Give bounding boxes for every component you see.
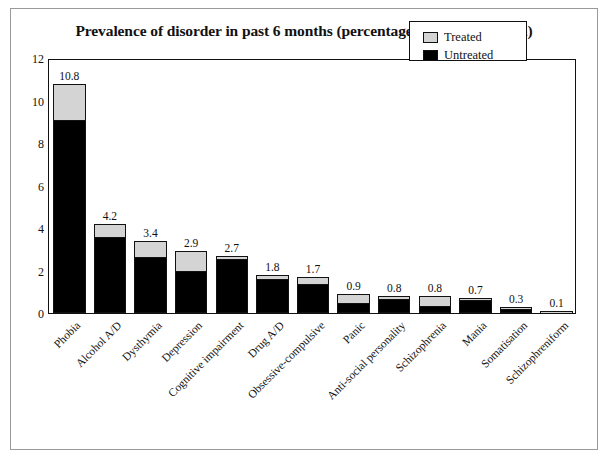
bar-value-label: 0.7 xyxy=(468,284,482,296)
y-axis-tick-label: 10 xyxy=(14,94,44,109)
bar-untreated-segment[interactable] xyxy=(94,224,126,313)
x-axis: PhobiaAlcohol A/DDysthymiaDepressionCogn… xyxy=(48,315,576,445)
bar-treated-segment[interactable] xyxy=(135,242,165,258)
bars-layer: 10.84.23.42.92.71.81.70.90.80.80.70.30.1 xyxy=(49,60,575,313)
bar-untreated-segment[interactable] xyxy=(297,277,329,313)
bar-group[interactable]: 0.8 xyxy=(419,58,451,313)
square-swatch-icon xyxy=(423,50,438,61)
bar-group[interactable]: 4.2 xyxy=(94,58,126,313)
bar-treated-segment[interactable] xyxy=(379,297,409,300)
x-axis-tick-label: Mania xyxy=(460,319,489,348)
square-swatch-icon xyxy=(423,32,438,43)
bar-treated-segment[interactable] xyxy=(501,308,531,311)
bar-value-label: 10.8 xyxy=(59,70,79,82)
bar-group[interactable]: 0.3 xyxy=(500,58,532,313)
y-axis-tick-label: 12 xyxy=(14,52,44,67)
bar-group[interactable]: 1.8 xyxy=(256,58,288,313)
bar-value-label: 1.8 xyxy=(265,261,279,273)
legend-item-label: Treated xyxy=(444,31,482,44)
bar-group[interactable]: 2.7 xyxy=(216,58,248,313)
bar-group[interactable]: 1.7 xyxy=(297,58,329,313)
bar-untreated-segment[interactable] xyxy=(256,275,288,313)
bar-group[interactable]: 2.9 xyxy=(175,58,207,313)
bar-treated-segment[interactable] xyxy=(338,295,368,305)
bar-untreated-segment[interactable] xyxy=(53,84,85,314)
x-axis-tick-label: Cognitive impairment xyxy=(165,319,245,399)
bar-group[interactable]: 0.9 xyxy=(337,58,369,313)
bar-untreated-segment[interactable] xyxy=(459,298,491,313)
x-axis-tick-label: Anti-social personality xyxy=(325,319,408,402)
bar-treated-segment[interactable] xyxy=(217,257,247,260)
bar-group[interactable]: 0.7 xyxy=(459,58,491,313)
y-axis-tick-label: 4 xyxy=(14,222,44,237)
bar-untreated-segment[interactable] xyxy=(175,251,207,313)
y-axis-tick-label: 0 xyxy=(14,307,44,322)
bar-untreated-segment[interactable] xyxy=(419,296,451,313)
y-axis: 024681012 xyxy=(11,59,44,314)
bar-value-label: 0.8 xyxy=(387,282,401,294)
legend-item-label: Untreated xyxy=(444,49,493,62)
bar-untreated-segment[interactable] xyxy=(540,311,572,313)
x-axis-tick-label: Panic xyxy=(341,319,368,346)
bar-treated-segment[interactable] xyxy=(420,297,450,307)
bar-value-label: 1.7 xyxy=(306,263,320,275)
bar-group[interactable]: 0.1 xyxy=(540,58,572,313)
y-axis-tick-label: 6 xyxy=(14,179,44,194)
bar-value-label: 0.3 xyxy=(509,293,523,305)
bar-group[interactable]: 10.8 xyxy=(53,58,85,313)
legend-item[interactable]: Untreated xyxy=(423,48,493,62)
bar-untreated-segment[interactable] xyxy=(337,294,369,313)
plot-area: 10.84.23.42.92.71.81.70.90.80.80.70.30.1 xyxy=(48,59,576,314)
x-axis-tick-label: Phobia xyxy=(52,319,83,350)
bar-group[interactable]: 3.4 xyxy=(134,58,166,313)
bar-untreated-segment[interactable] xyxy=(500,307,532,313)
chart-legend: TreatedUntreated xyxy=(409,21,527,61)
x-axis-tick-label: Obsessive-compulsive xyxy=(245,319,327,401)
bar-value-label: 0.1 xyxy=(549,297,563,309)
bar-treated-segment[interactable] xyxy=(54,85,84,121)
y-axis-tick-label: 8 xyxy=(14,137,44,152)
bar-treated-segment[interactable] xyxy=(95,225,125,238)
y-axis-tick-label: 2 xyxy=(14,264,44,279)
bar-untreated-segment[interactable] xyxy=(134,241,166,313)
bar-group[interactable]: 0.8 xyxy=(378,58,410,313)
bar-value-label: 3.4 xyxy=(143,227,157,239)
legend-item[interactable]: Treated xyxy=(423,30,482,44)
x-axis-tick-label: Dysthymia xyxy=(120,319,164,363)
bar-treated-segment[interactable] xyxy=(298,278,328,285)
x-axis-tick-label: Drug A/D xyxy=(245,319,286,360)
bar-treated-segment[interactable] xyxy=(541,312,571,313)
bar-untreated-segment[interactable] xyxy=(216,256,248,313)
bar-value-label: 0.8 xyxy=(428,282,442,294)
bar-treated-segment[interactable] xyxy=(257,276,287,280)
bar-value-label: 2.7 xyxy=(225,242,239,254)
bar-treated-segment[interactable] xyxy=(460,299,490,301)
bar-value-label: 0.9 xyxy=(346,280,360,292)
bar-value-label: 2.9 xyxy=(184,237,198,249)
chart-figure: Prevalence of disorder in past 6 months … xyxy=(10,8,598,450)
bar-treated-segment[interactable] xyxy=(176,252,206,271)
bar-untreated-segment[interactable] xyxy=(378,296,410,313)
bar-value-label: 4.2 xyxy=(103,210,117,222)
